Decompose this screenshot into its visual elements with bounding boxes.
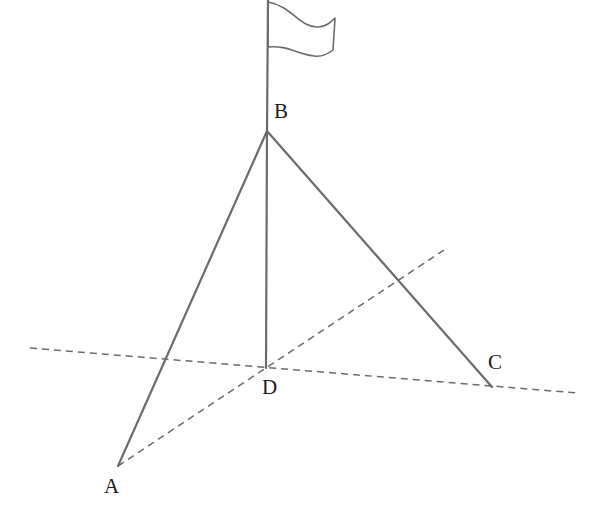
flagpole-line [267, 0, 268, 131]
vertex-label-d: D [262, 377, 277, 398]
vertex-label-a: A [104, 476, 119, 497]
vertex-label-c: C [488, 352, 502, 373]
diagram-canvas [0, 0, 607, 510]
vertex-label-b: B [274, 101, 288, 122]
flag-banner-icon [268, 2, 335, 56]
segment-BD [266, 131, 267, 368]
geometry-diagram: A B C D [0, 0, 607, 510]
segment-BC [267, 131, 492, 387]
